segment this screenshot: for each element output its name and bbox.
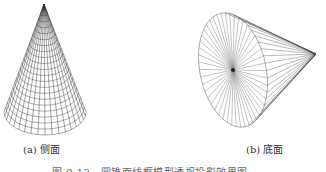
figure-caption: 图 9.13 圆锥面线框模型透视投影效果图	[52, 164, 248, 172]
subcaption-b: (b) 底面	[246, 141, 283, 156]
subcaption-a: (a) 侧面	[23, 141, 60, 156]
figure: (a) 侧面 (b) 底面 图 9.13 圆锥面线框模型透视投影效果图	[0, 0, 326, 172]
